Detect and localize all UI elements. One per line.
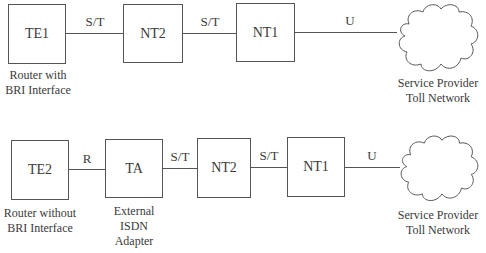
te1-box: TE1 [8,4,66,64]
link-label-st: S/T [195,14,225,30]
link-nt2-nt1 [251,167,287,168]
link-label-st: S/T [165,149,195,165]
link-nt2-nt1 [183,33,236,34]
te1-caption: Router with BRI Interface [0,68,76,98]
link-nt1-cloud [345,167,400,168]
cloud-icon [395,2,481,76]
link-nt1-cloud [295,32,397,33]
link-label-st: S/T [254,148,284,164]
te2-caption: Router without BRI Interface [0,206,80,236]
link-label-u: U [364,148,380,164]
ta-label: TA [125,161,143,177]
te1-label: TE1 [25,26,49,42]
nt2-box: NT2 [123,4,183,63]
nt1-box: NT1 [236,3,295,62]
nt1-label: NT1 [303,159,329,175]
nt2-label: NT2 [211,160,237,176]
te2-box: TE2 [11,140,69,200]
ta-caption: External ISDN Adapter [99,204,169,249]
ta-box: TA [105,139,163,198]
cloud-icon [397,133,481,206]
isdn-reference-diagram: TE1 S/T NT2 S/T NT1 U Router with BRI In… [0,0,486,253]
te2-label: TE2 [28,162,52,178]
cloud-caption: Service Provider Toll Network [390,208,486,238]
link-ta-nt2 [163,168,197,169]
nt2-label: NT2 [140,26,166,42]
link-label-u: U [340,13,360,29]
link-te1-nt2 [66,33,123,34]
link-label-st: S/T [80,14,110,30]
cloud-caption: Service Provider Toll Network [390,76,486,106]
link-te2-ta [69,169,105,170]
nt1-label: NT1 [253,25,279,41]
link-label-r: R [79,151,95,167]
nt1-box: NT1 [287,137,345,197]
nt2-box: NT2 [197,138,251,198]
